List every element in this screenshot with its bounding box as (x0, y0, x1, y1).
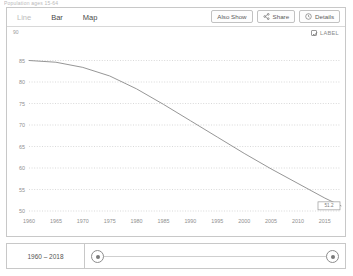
x-tick-label: 1965 (50, 218, 62, 224)
info-icon (305, 13, 312, 20)
y-tick-label: 85 (19, 58, 25, 64)
tab-line[interactable]: Line (17, 13, 31, 22)
y-tick-label: 80 (19, 79, 25, 85)
x-tick-label: 1985 (157, 218, 169, 224)
y-tick-label: 75 (19, 101, 25, 107)
chart-area: 90 LABEL 8580757065605550196019651970197… (7, 27, 345, 237)
y-tick-label: 65 (19, 144, 25, 150)
time-range-slider[interactable] (85, 244, 345, 268)
y-tick-label: 50 (19, 208, 25, 214)
line-chart-plot: 8580757065605550196019651970197519801985… (7, 27, 345, 237)
y-tick-label: 60 (19, 165, 25, 171)
details-label: Details (315, 13, 334, 20)
time-range-footer: 1960 – 2018 (6, 243, 346, 269)
x-tick-label: 2000 (238, 218, 250, 224)
x-tick-label: 1995 (211, 218, 223, 224)
share-button[interactable]: Share (257, 10, 296, 23)
cutoff-header-text: Population ages 15-64 (4, 0, 124, 6)
tab-map[interactable]: Map (83, 13, 98, 22)
x-tick-label: 1970 (77, 218, 89, 224)
slider-handle-start[interactable] (91, 250, 104, 263)
data-label-text: 51.2 (325, 203, 334, 208)
tab-bar[interactable]: Bar (51, 13, 63, 22)
x-tick-label: 2010 (292, 218, 304, 224)
share-label: Share (273, 13, 290, 20)
details-button[interactable]: Details (299, 10, 340, 23)
y-tick-label: 55 (19, 187, 25, 193)
toolbar-buttons: Also Show Share (211, 10, 340, 23)
also-show-label: Also Show (217, 13, 246, 20)
x-tick-label: 1960 (23, 218, 35, 224)
x-tick-label: 2015 (319, 218, 331, 224)
range-label: 1960 – 2018 (7, 244, 85, 268)
x-tick-label: 1975 (104, 218, 116, 224)
slider-handle-end[interactable] (326, 250, 339, 263)
y-tick-label: 70 (19, 122, 25, 128)
chart-panel: Line Bar Map Also Show Share (6, 7, 346, 237)
slider-track[interactable] (99, 256, 331, 257)
chart-toolbar: Line Bar Map Also Show Share (7, 8, 345, 27)
x-tick-label: 1980 (131, 218, 143, 224)
view-tabs: Line Bar Map (17, 8, 97, 26)
x-tick-label: 1990 (184, 218, 196, 224)
share-icon (263, 13, 270, 20)
also-show-button[interactable]: Also Show (211, 10, 252, 23)
x-tick-label: 2005 (265, 218, 277, 224)
